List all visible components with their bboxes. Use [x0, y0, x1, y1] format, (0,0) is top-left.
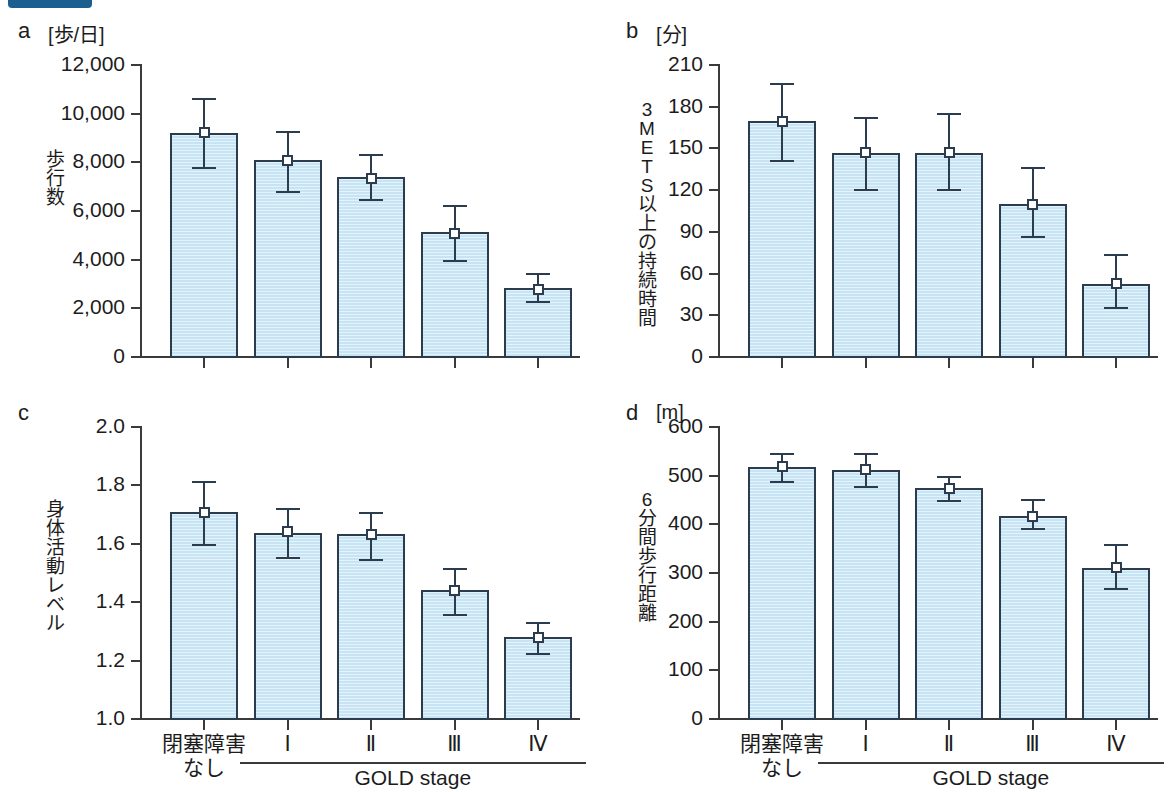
ylabel-char: 間: [636, 528, 658, 547]
panel-d-ytick-label: 500: [588, 463, 703, 487]
panel-d-errorbar-cap-upper-2: [937, 476, 961, 478]
panel-d-y-axis-title: 6分間歩行距離: [636, 490, 658, 623]
ylabel-char: 分: [636, 509, 658, 528]
panel-d-y-axis: [718, 426, 720, 720]
panel-d-errorbar-cap-lower-2: [937, 500, 961, 502]
panel-d-xlabel-4: Ⅳ: [1106, 732, 1125, 756]
panel-d-errorbar-cap-upper-0: [770, 453, 794, 455]
panel-d-bar-4: [1082, 568, 1150, 720]
panel-d-xtick-3: [1032, 720, 1034, 730]
panel-d-xlabel-0: 閉塞障害 なし: [740, 732, 824, 779]
panel-d-ytick: [709, 572, 718, 574]
panel-d-errorbar-cap-lower-1: [854, 486, 878, 488]
panel-d-bar-0: [748, 467, 816, 720]
panel-d-ytick-label: 600: [588, 414, 703, 438]
panel-d-ytick-label: 0: [588, 706, 703, 730]
panel-d-mean-marker-0: [777, 461, 788, 472]
panel-d-bar-3: [999, 516, 1067, 720]
panel-d-errorbar-cap-upper-1: [854, 453, 878, 455]
ylabel-char: 行: [636, 566, 658, 585]
panel-d-xtick-1: [865, 720, 867, 730]
panel-d-ytick: [709, 669, 718, 671]
panel-d-errorbar-cap-lower-4: [1104, 588, 1128, 590]
panel-d-bar-2: [915, 488, 983, 720]
panel-d-ytick: [709, 475, 718, 477]
ylabel-char: 離: [636, 604, 658, 623]
ylabel-char: 6: [636, 490, 658, 509]
panel-d-mean-marker-2: [944, 483, 955, 494]
panel-d: d[m]01002003004005006006分間歩行距離閉塞障害 なしⅠⅡⅢ…: [0, 0, 1172, 792]
panel-d-ytick: [709, 426, 718, 428]
panel-d-xtick-0: [781, 720, 783, 730]
panel-d-ytick: [709, 523, 718, 525]
panel-d-xlabel-1: Ⅰ: [862, 732, 868, 756]
panel-d-mean-marker-4: [1111, 562, 1122, 573]
panel-d-errorbar-cap-upper-3: [1021, 499, 1045, 501]
panel-d-group-label: GOLD stage: [932, 766, 1049, 790]
panel-d-mean-marker-3: [1027, 511, 1038, 522]
panel-d-errorbar-cap-lower-3: [1021, 528, 1045, 530]
panel-d-mean-marker-1: [860, 464, 871, 475]
panel-d-errorbar-cap-lower-0: [770, 481, 794, 483]
panel-d-ytick-label: 100: [588, 657, 703, 681]
panel-d-ytick: [709, 718, 718, 720]
panel-d-group-rule: [818, 762, 1165, 764]
panel-d-xlabel-3: Ⅲ: [1025, 732, 1039, 756]
panel-d-bar-1: [832, 470, 900, 720]
panel-d-xtick-2: [948, 720, 950, 730]
panel-d-xlabel-2: Ⅱ: [944, 732, 954, 756]
panel-d-ytick: [709, 621, 718, 623]
panel-d-errorbar-cap-upper-4: [1104, 544, 1128, 546]
panel-d-xtick-4: [1115, 720, 1117, 730]
ylabel-char: 距: [636, 585, 658, 604]
ylabel-char: 歩: [636, 547, 658, 566]
